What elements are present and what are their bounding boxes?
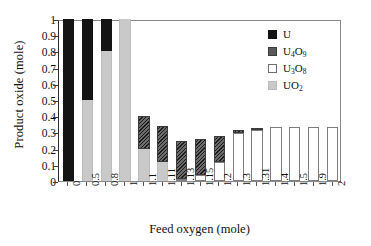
x-tick-mark <box>67 182 68 186</box>
x-tick-mark <box>237 182 238 186</box>
x-tick-label: 1.1 <box>147 140 158 186</box>
x-tick-mark <box>143 182 144 186</box>
x-tick-label: 1.2 <box>222 140 233 186</box>
legend-swatch-icon <box>268 64 277 73</box>
x-tick-label: 1 <box>128 140 139 186</box>
y-tick-label: 0.9 <box>16 31 56 41</box>
bar-segment-u <box>101 19 112 51</box>
legend-label: U4O9 <box>283 46 306 58</box>
legend-swatch-icon <box>268 47 277 56</box>
legend-item-uo2: UO2 <box>268 77 306 94</box>
x-tick-label: 1.9 <box>317 140 328 186</box>
y-tick-label: 1 <box>16 15 56 25</box>
y-tick-label: 0.5 <box>16 96 56 106</box>
x-tick-mark <box>200 182 201 186</box>
x-tick-label: 0 <box>71 140 82 186</box>
x-tick-label: 1.15 <box>204 140 215 186</box>
x-tick-label: 0.8 <box>109 140 120 186</box>
x-tick-label: 1.11 <box>166 140 177 186</box>
x-tick-label: 1.13 <box>185 140 196 186</box>
bar-segment-u4o9 <box>233 130 244 133</box>
legend-swatch-icon <box>268 30 277 39</box>
x-tick-mark <box>162 182 163 186</box>
y-tick-label: 0.7 <box>16 64 56 74</box>
x-tick-mark <box>313 182 314 186</box>
legend-swatch-icon <box>268 81 277 90</box>
legend-label: U3O8 <box>283 63 306 75</box>
x-tick-mark <box>105 182 106 186</box>
y-tick-label: 0 <box>16 177 56 187</box>
bar-segment-u4o9 <box>251 128 262 130</box>
bar-segment-u <box>82 19 93 100</box>
x-tick-mark <box>294 182 295 186</box>
y-tick-label: 0.6 <box>16 80 56 90</box>
legend-item-u: U <box>268 26 306 43</box>
y-tick-mark <box>53 182 58 183</box>
x-tick-label: 1.5 <box>298 140 309 186</box>
x-tick-mark <box>124 182 125 186</box>
y-tick-label: 0.3 <box>16 128 56 138</box>
legend-label: UO2 <box>283 80 303 92</box>
x-axis-title: Feed oxygen (mole) <box>58 222 341 237</box>
legend: UU4O9U3O8UO2 <box>268 26 306 94</box>
x-tick-mark <box>275 182 276 186</box>
chart-figure: Product oxide (mole) 00.10.20.30.40.50.6… <box>0 0 371 246</box>
x-tick-label: 2 <box>336 140 347 186</box>
legend-item-u3o8: U3O8 <box>268 60 306 77</box>
y-tick-label: 0.4 <box>16 112 56 122</box>
x-tick-mark <box>86 182 87 186</box>
y-tick-label: 0.2 <box>16 145 56 155</box>
legend-item-u4o9: U4O9 <box>268 43 306 60</box>
x-tick-label: 1.3 <box>241 140 252 186</box>
y-tick-label: 0.8 <box>16 47 56 57</box>
x-tick-label: 1.4 <box>279 140 290 186</box>
x-tick-mark <box>332 182 333 186</box>
x-tick-mark <box>256 182 257 186</box>
x-tick-label: 1.31 <box>260 140 271 186</box>
x-tick-mark <box>218 182 219 186</box>
y-tick-label: 0.1 <box>16 161 56 171</box>
legend-label: U <box>283 29 291 40</box>
x-tick-label: 0.5 <box>90 140 101 186</box>
x-tick-mark <box>181 182 182 186</box>
